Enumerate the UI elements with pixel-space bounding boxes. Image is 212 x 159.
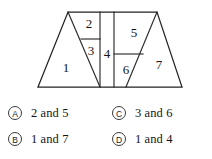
option-a[interactable]: A 2 and 5 bbox=[8, 100, 108, 126]
option-c-text: 3 and 6 bbox=[135, 106, 173, 121]
option-a-text: 2 and 5 bbox=[31, 106, 69, 121]
region-label-3: 3 bbox=[88, 43, 95, 58]
region-label-7: 7 bbox=[156, 57, 163, 72]
region-label-1: 1 bbox=[63, 60, 70, 75]
option-d-text: 1 and 4 bbox=[135, 132, 173, 147]
option-b[interactable]: B 1 and 7 bbox=[8, 126, 108, 152]
figure-panel: 1 2 3 4 5 6 7 bbox=[0, 0, 212, 96]
region-label-4: 4 bbox=[104, 46, 111, 61]
option-b-letter: B bbox=[8, 132, 22, 146]
option-c-letter: C bbox=[112, 106, 126, 120]
option-a-letter: A bbox=[8, 106, 22, 120]
option-d-letter: D bbox=[112, 132, 126, 146]
region-label-6: 6 bbox=[123, 62, 130, 77]
option-d[interactable]: D 1 and 4 bbox=[112, 126, 210, 152]
trapezoid-figure: 1 2 3 4 5 6 7 bbox=[0, 0, 212, 96]
region-label-2: 2 bbox=[86, 16, 93, 31]
region-label-5: 5 bbox=[131, 25, 138, 40]
answer-options: A 2 and 5 B 1 and 7 C 3 and 6 D 1 and 4 bbox=[0, 96, 212, 159]
option-c[interactable]: C 3 and 6 bbox=[112, 100, 210, 126]
option-b-text: 1 and 7 bbox=[31, 132, 69, 147]
